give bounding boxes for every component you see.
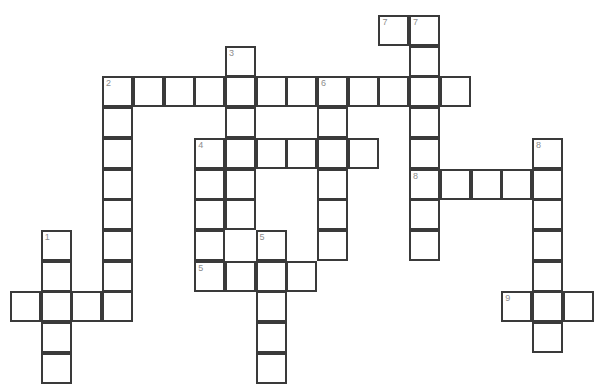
cell-number: 9 [505, 293, 510, 304]
crossword-cell[interactable]: 7 [378, 15, 409, 46]
crossword-cell[interactable] [532, 261, 563, 292]
crossword-cell[interactable] [532, 169, 563, 200]
crossword-cell[interactable] [194, 230, 225, 261]
crossword-cell[interactable] [41, 291, 72, 322]
crossword-cell[interactable] [102, 169, 133, 200]
crossword-cell[interactable] [409, 230, 440, 261]
crossword-cell[interactable] [41, 353, 72, 384]
crossword-cell[interactable]: 2 [102, 76, 133, 107]
crossword-cell[interactable] [225, 76, 256, 107]
cell-number: 5 [260, 232, 265, 243]
crossword-cell[interactable] [256, 76, 287, 107]
crossword-cell[interactable] [102, 199, 133, 230]
crossword-cell[interactable] [532, 199, 563, 230]
crossword-cell[interactable] [164, 76, 195, 107]
crossword-cell[interactable] [133, 76, 164, 107]
crossword-cell[interactable] [317, 230, 348, 261]
crossword-cell[interactable]: 5 [256, 230, 287, 261]
crossword-cell[interactable] [256, 138, 287, 169]
crossword-cell[interactable] [409, 138, 440, 169]
crossword-cell[interactable]: 6 [317, 76, 348, 107]
crossword-cell[interactable] [225, 169, 256, 200]
crossword-cell[interactable] [256, 291, 287, 322]
crossword-cell[interactable]: 9 [501, 291, 532, 322]
crossword-cell[interactable] [378, 76, 409, 107]
crossword-cell[interactable] [317, 199, 348, 230]
crossword-cell[interactable] [102, 261, 133, 292]
crossword-cell[interactable]: 5 [194, 261, 225, 292]
crossword-cell[interactable] [409, 46, 440, 77]
cell-number: 3 [229, 48, 234, 59]
cell-number: 5 [198, 263, 203, 274]
crossword-cell[interactable] [41, 322, 72, 353]
crossword-cell[interactable]: 8 [409, 169, 440, 200]
crossword-cell[interactable]: 7 [409, 15, 440, 46]
crossword-cell[interactable] [440, 169, 471, 200]
crossword-cell[interactable] [194, 76, 225, 107]
crossword-cell[interactable] [440, 76, 471, 107]
crossword-cell[interactable] [409, 107, 440, 138]
crossword-cell[interactable] [194, 199, 225, 230]
crossword-cell[interactable] [532, 322, 563, 353]
crossword-cell[interactable] [409, 76, 440, 107]
crossword-cell[interactable] [225, 107, 256, 138]
crossword-cell[interactable]: 4 [194, 138, 225, 169]
crossword-cell[interactable] [10, 291, 41, 322]
crossword-cell[interactable] [102, 107, 133, 138]
crossword-cell[interactable] [563, 291, 594, 322]
cell-number: 7 [382, 17, 387, 28]
crossword-cell[interactable] [317, 138, 348, 169]
crossword-cell[interactable] [225, 199, 256, 230]
crossword-cell[interactable] [409, 199, 440, 230]
crossword-cell[interactable] [286, 261, 317, 292]
crossword-cell[interactable] [102, 230, 133, 261]
crossword-cell[interactable] [286, 138, 317, 169]
crossword-cell[interactable] [256, 322, 287, 353]
cell-number: 6 [321, 78, 326, 89]
crossword-cell[interactable] [348, 76, 379, 107]
crossword-cell[interactable] [225, 138, 256, 169]
crossword-cell[interactable] [225, 261, 256, 292]
crossword-cell[interactable] [41, 261, 72, 292]
crossword-cell[interactable] [102, 291, 133, 322]
crossword-cell[interactable]: 1 [41, 230, 72, 261]
crossword-cell[interactable] [471, 169, 502, 200]
crossword-cell[interactable] [71, 291, 102, 322]
crossword-cell[interactable] [286, 76, 317, 107]
crossword-cell[interactable]: 3 [225, 46, 256, 77]
crossword-cell[interactable] [317, 107, 348, 138]
crossword-cell[interactable]: 8 [532, 138, 563, 169]
crossword-cell[interactable] [256, 353, 287, 384]
crossword-cell[interactable] [102, 138, 133, 169]
cell-number: 1 [45, 232, 50, 243]
cell-number: 8 [413, 171, 418, 182]
crossword-cell[interactable] [532, 230, 563, 261]
crossword-cell[interactable] [194, 169, 225, 200]
crossword-cell[interactable] [532, 291, 563, 322]
crossword-cell[interactable] [256, 261, 287, 292]
cell-number: 7 [413, 17, 418, 28]
cell-number: 8 [536, 140, 541, 151]
cell-number: 2 [106, 78, 111, 89]
crossword-cell[interactable] [317, 169, 348, 200]
crossword-cell[interactable] [348, 138, 379, 169]
cell-number: 4 [198, 140, 203, 151]
crossword-cell[interactable] [501, 169, 532, 200]
